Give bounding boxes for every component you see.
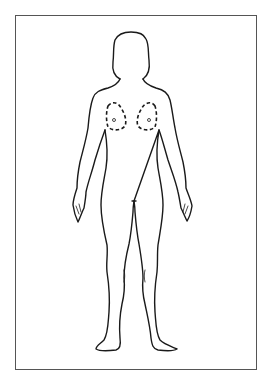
left-torso-outline <box>96 130 134 351</box>
nipples <box>113 119 151 122</box>
body-diagram <box>0 0 268 380</box>
head-outline <box>113 32 150 79</box>
left-hand-detail <box>76 204 81 214</box>
right-torso-outline <box>134 130 177 351</box>
left-side-outline <box>73 79 120 222</box>
right-side-outline <box>143 79 192 221</box>
body-outline <box>73 32 192 351</box>
left-nipple <box>113 119 116 122</box>
right-nipple <box>148 119 151 122</box>
diagram-frame <box>16 16 257 370</box>
right-knee-detail <box>144 270 145 282</box>
breast-annotations <box>107 103 157 130</box>
right-breast-outline <box>137 103 156 130</box>
left-breast-outline <box>107 103 126 130</box>
